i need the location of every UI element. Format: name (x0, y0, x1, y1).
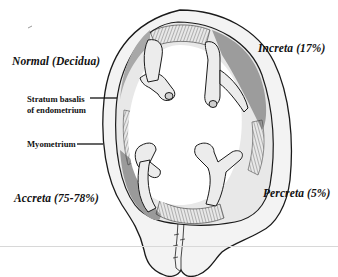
placenta-invasion-diagram: Normal (Decidua) Increta (17%) Stratum b… (0, 0, 338, 277)
label-stratum-line2: of endometrium (27, 105, 86, 115)
page-divider (0, 246, 338, 247)
label-increta: Increta (17%) (258, 43, 325, 55)
label-stratum-line1: Stratum basalis (27, 94, 85, 104)
label-myometrium: Myometrium (27, 139, 76, 150)
label-accreta: Accreta (75-78%) (14, 193, 99, 205)
label-stratum-basalis: Stratum basalis of endometrium (27, 94, 86, 115)
label-percreta: Percreta (5%) (263, 188, 330, 200)
label-normal-decidua: Normal (Decidua) (12, 56, 100, 68)
